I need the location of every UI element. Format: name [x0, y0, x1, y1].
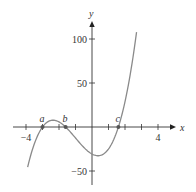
root-label-c: c [115, 113, 120, 124]
y-tick-label: −50 [71, 166, 87, 177]
x-tick-label: 4 [156, 132, 161, 143]
y-ticks: 10050−50 [71, 34, 95, 177]
y-axis-label: y [88, 8, 94, 19]
y-tick-label: 50 [77, 78, 87, 89]
cubic-curve [28, 32, 137, 167]
y-tick-label: 100 [72, 34, 87, 45]
x-tick-label: −4 [21, 132, 32, 143]
root-point-b [64, 125, 68, 129]
x-axis-label: x [179, 122, 185, 133]
y-axis-arrow-icon [89, 21, 94, 27]
root-label-b: b [63, 113, 68, 124]
cubic-function-graph: x y −44 10050−50 abc [0, 0, 196, 192]
x-axis-arrow-icon [170, 124, 176, 129]
root-point-a [41, 125, 45, 129]
root-point-c [116, 125, 120, 129]
axes: x y [13, 8, 185, 185]
root-label-a: a [40, 113, 45, 124]
